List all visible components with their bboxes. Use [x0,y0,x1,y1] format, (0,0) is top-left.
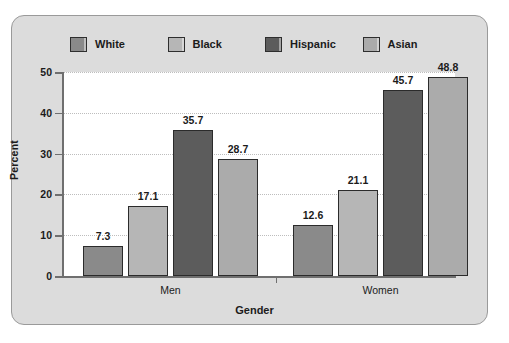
x-group-label: Women [363,284,399,296]
bar-value-label: 45.7 [393,74,413,86]
bar-value-label: 17.1 [138,190,158,202]
bar[interactable] [293,225,333,276]
legend-item-label: Asian [388,38,418,50]
legend-swatch-icon [70,37,87,52]
bar[interactable] [173,130,213,276]
legend-item-label: White [95,38,125,50]
y-tick-mark [55,235,62,237]
legend-item-white[interactable]: White [70,37,168,52]
y-axis-title: Percent [8,140,20,180]
y-tick-label: 50 [26,66,52,78]
bar-value-label: 7.3 [96,230,111,242]
y-tick-label: 20 [26,188,52,200]
chart-legend: WhiteBlackHispanicAsian [70,33,460,55]
legend-swatch-icon [363,37,380,52]
chart-figure: WhiteBlackHispanicAsian 7.317.135.728.71… [0,0,509,343]
bar-value-label: 12.6 [303,209,323,221]
x-group-separator-tick [276,277,278,283]
bar-value-label: 35.7 [183,114,203,126]
bar[interactable] [383,90,423,276]
y-tick-label: 10 [26,229,52,241]
bar[interactable] [428,77,468,276]
y-tick-label: 30 [26,148,52,160]
y-tick-mark [55,154,62,156]
legend-item-black[interactable]: Black [168,37,266,52]
bar[interactable] [218,159,258,276]
bar[interactable] [338,190,378,276]
legend-item-label: Black [193,38,222,50]
x-group-label: Men [160,284,180,296]
bar[interactable] [83,246,123,276]
legend-swatch-icon [168,37,185,52]
legend-item-asian[interactable]: Asian [363,37,461,52]
bar-value-label: 21.1 [348,174,368,186]
y-tick-mark [55,113,62,115]
legend-item-label: Hispanic [290,38,336,50]
y-tick-mark [55,194,62,196]
y-axis-line [62,72,64,277]
bar-value-label: 28.7 [228,143,248,155]
y-tick-mark [55,276,62,278]
y-tick-label: 40 [26,107,52,119]
bar[interactable] [128,206,168,276]
plot-area: 7.317.135.728.712.621.145.748.8 [63,72,455,276]
y-tick-label: 0 [26,270,52,282]
legend-item-hispanic[interactable]: Hispanic [265,37,363,52]
x-axis-title: Gender [0,304,509,316]
y-tick-mark [55,72,62,74]
legend-swatch-icon [265,37,282,52]
x-axis-line [62,276,456,278]
bar-value-label: 48.8 [438,61,458,73]
